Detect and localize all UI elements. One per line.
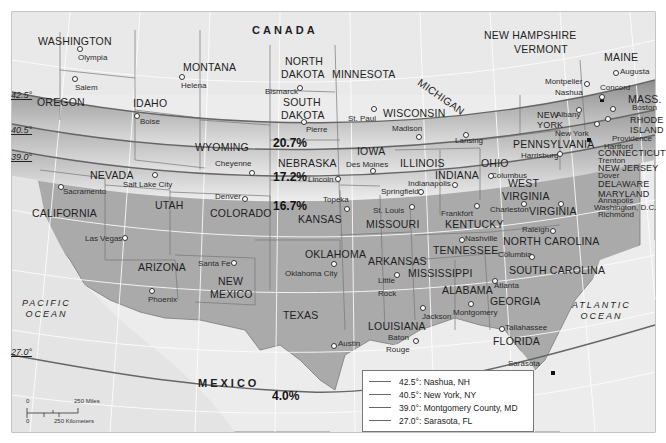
state-label-alabama: ALABAMA: [442, 285, 493, 296]
latitude-label-40-5: 40.5°: [11, 126, 32, 135]
city-label-trenton: Trenton: [598, 157, 625, 165]
state-label-wisconsin: WISCONSIN: [383, 108, 445, 119]
city-label-lincoln: Lincoln: [308, 176, 333, 184]
city-label-boise: Boise: [140, 118, 160, 126]
capital-marker-icon: [152, 172, 158, 178]
capital-marker-icon: [594, 121, 600, 127]
state-label-north-carolina: NORTH CAROLINA: [503, 236, 600, 247]
legend-latitude: 42.5°:: [399, 377, 421, 387]
city-label-denver: Denver: [215, 193, 241, 201]
city-label-columbia: Columbia: [498, 251, 532, 259]
legend: 42.5°: Nashua, NH 40.5°: New York, NY 39…: [362, 370, 534, 432]
state-label-oklahoma: OKLAHOMA: [305, 249, 366, 260]
country-label-mexico: MEXICO: [198, 378, 259, 389]
state-label-new-mexico-1: NEW: [218, 276, 243, 287]
legend-place: Montgomery County, MD: [424, 403, 518, 413]
city-label-richmond: Richmond: [598, 211, 634, 219]
city-label-springfield: Springfield: [381, 188, 419, 196]
capital-marker-icon: [409, 204, 415, 210]
state-label-pennsylvania: PENNSYLVANIA: [513, 139, 594, 150]
legend-item: 27.0°: Sarasota, FL: [369, 414, 527, 427]
capital-marker-icon: [242, 196, 248, 202]
ocean-label-pacific: PACIFIC OCEAN: [22, 298, 71, 321]
city-label-lansing: Lansing: [455, 137, 483, 145]
capital-marker-icon: [550, 228, 556, 234]
state-label-new-mexico-2: MEXICO: [210, 289, 253, 300]
city-label-las-vegas: Las Vegas: [85, 235, 122, 243]
city-label-topeka: Topeka: [323, 196, 349, 204]
city-label-sarasota: Sarasota: [508, 360, 540, 368]
city-label-concord: Concord: [600, 84, 630, 92]
legend-line-icon: [369, 381, 391, 382]
city-label-frankfort: Frankfort: [441, 210, 473, 218]
capital-marker-icon: [468, 301, 474, 307]
legend-place: Sarasota, FL: [424, 416, 473, 426]
legend-line-icon: [369, 420, 391, 421]
city-label-pierre: Pierre: [306, 126, 327, 134]
state-label-illinois: ILLINOIS: [400, 158, 445, 169]
city-label-nashua: Nashua: [555, 89, 583, 97]
state-label-wyoming: WYOMING: [195, 142, 249, 153]
legend-latitude: 40.5°:: [399, 390, 421, 400]
capital-marker-icon: [297, 85, 303, 91]
latitude-label-42-5: 42.5°: [11, 91, 32, 100]
capital-marker-icon: [499, 326, 505, 332]
state-label-south-carolina: SOUTH CAROLINA: [509, 265, 605, 276]
city-label-little-rock-1: Little: [378, 277, 395, 285]
ocean-label-line: ATLANTIC: [572, 300, 631, 311]
scale-km-label: 250 Kilometers: [54, 418, 94, 424]
capital-marker-icon: [416, 134, 422, 140]
scale-bar: 0 250 Miles 0 250 Kilometers: [24, 398, 114, 428]
capital-marker-icon: [584, 81, 590, 87]
capital-marker-icon: [613, 70, 619, 76]
state-label-maine: MAINE: [604, 52, 638, 63]
capital-marker-icon: [474, 203, 480, 209]
city-label-augusta: Augusta: [620, 68, 649, 76]
percentage-label-42-5: 20.7%: [273, 137, 307, 149]
city-label-sacramento: Sacramento: [63, 188, 106, 196]
capital-marker-icon: [149, 288, 155, 294]
capital-marker-icon: [420, 305, 426, 311]
state-label-louisiana: LOUISIANA: [368, 321, 426, 332]
country-label-canada: CANADA: [252, 25, 318, 36]
state-label-vermont: VERMONT: [514, 44, 568, 55]
percentage-label-39-0: 16.7%: [273, 200, 307, 212]
scale-zero-top: 0: [26, 398, 29, 404]
latitude-label-27-0: 27.0°: [11, 348, 32, 357]
capital-marker-icon: [370, 168, 376, 174]
ocean-label-line: OCEAN: [572, 311, 631, 322]
city-label-helena: Helena: [181, 82, 206, 90]
city-label-baton-rouge-1: Baton: [388, 334, 409, 342]
capital-marker-icon: [605, 116, 611, 122]
city-label-bismarck: Bismarck: [265, 88, 298, 96]
city-label-st-louis: St. Louis: [373, 207, 404, 215]
legend-place: New York, NY: [424, 390, 476, 400]
city-label-atlanta: Atlanta: [494, 282, 519, 290]
capital-marker-icon: [452, 182, 458, 188]
state-label-arkansas: ARKANSAS: [368, 256, 427, 267]
capital-marker-icon: [492, 278, 498, 284]
city-label-des-moines: Des Moines: [346, 161, 388, 169]
state-label-missouri: MISSOURI: [366, 219, 420, 230]
city-label-raleigh: Raleigh: [522, 226, 549, 234]
legend-line-icon: [369, 407, 391, 408]
capital-marker-icon: [413, 338, 419, 344]
state-label-florida: FLORIDA: [493, 336, 540, 347]
city-label-santa-fe: Santa Fe: [198, 260, 230, 268]
state-label-ohio: OHIO: [481, 158, 509, 169]
state-label-nebraska: NEBRASKA: [278, 158, 337, 169]
capital-marker-icon: [576, 107, 582, 113]
capital-marker-icon: [134, 113, 140, 119]
state-label-west-virginia-2: VIRGINIA: [502, 191, 550, 202]
city-label-boston: Boston: [632, 104, 657, 112]
city-label-oklahoma-city: Oklahoma City: [285, 270, 337, 278]
scale-zero-bottom: 0: [26, 418, 29, 424]
city-label-jackson: Jackson: [422, 313, 451, 321]
scale-miles-label: 250 Miles: [74, 398, 100, 404]
state-label-utah: UTAH: [155, 200, 184, 211]
state-label-iowa: IOWA: [357, 146, 385, 157]
state-label-rhode-island-1: RHODE: [630, 116, 664, 125]
city-label-tallahassee: Tallahassee: [505, 324, 547, 332]
capital-marker-icon: [331, 343, 337, 349]
legend-item: 40.5°: New York, NY: [369, 388, 527, 401]
